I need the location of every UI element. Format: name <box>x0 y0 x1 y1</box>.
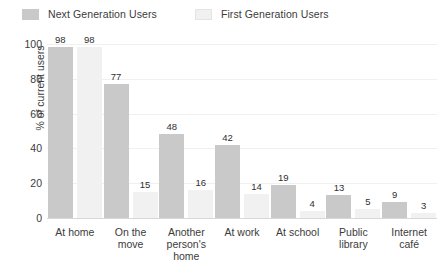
bar <box>411 213 436 218</box>
x-axis-line <box>47 218 437 219</box>
bar-value-label: 77 <box>104 72 129 82</box>
bar-value-label: 16 <box>188 178 213 188</box>
bar-group: 7715 <box>104 44 158 218</box>
x-axis-category-label: At home <box>47 226 103 238</box>
bar <box>188 190 213 218</box>
bar-group: 9898 <box>48 44 102 218</box>
bar-value-label: 98 <box>77 35 102 45</box>
bar-value-label: 9 <box>382 190 407 200</box>
chart-legend: Next Generation Users First Generation U… <box>22 8 329 20</box>
bar-value-label: 98 <box>48 35 73 45</box>
x-axis-category-label: Internetcafé <box>381 226 437 250</box>
bar <box>77 47 102 218</box>
legend-swatch-first-generation-users <box>195 9 212 20</box>
bar-value-label: 5 <box>355 197 380 207</box>
bar <box>355 209 380 218</box>
bar-group: 194 <box>271 44 325 218</box>
bar <box>244 194 269 218</box>
y-axis-tick-label: 0 <box>16 213 42 224</box>
bar-group: 93 <box>382 44 436 218</box>
bar-value-label: 48 <box>159 122 184 132</box>
bar-value-label: 3 <box>411 201 436 211</box>
bar-value-label: 42 <box>215 133 240 143</box>
x-axis-category-label: Publiclibrary <box>326 226 382 250</box>
bar-chart: Next Generation Users First Generation U… <box>0 0 444 273</box>
bars-layer: 989877154816421419413593 <box>47 44 437 218</box>
bar <box>104 84 129 218</box>
bar-group: 4816 <box>159 44 213 218</box>
x-axis-category-label: At school <box>270 226 326 238</box>
legend-label-next-generation-users: Next Generation Users <box>48 8 157 20</box>
y-axis-tick-label: 20 <box>16 178 42 189</box>
legend-swatch-next-generation-users <box>22 9 39 20</box>
x-axis-category-labels: At homeOn themoveAnotherperson'shomeAt w… <box>47 226 437 272</box>
bar <box>271 185 296 218</box>
bar-value-label: 15 <box>133 180 158 190</box>
y-axis-tick-labels: 020406080100 <box>12 44 42 218</box>
legend-label-first-generation-users: First Generation Users <box>221 8 329 20</box>
bar <box>326 195 351 218</box>
y-axis-tick-label: 80 <box>16 74 42 85</box>
y-axis-tick-label: 60 <box>16 109 42 120</box>
x-axis-category-label: At work <box>214 226 270 238</box>
x-axis-category-label: On themove <box>103 226 159 250</box>
bar <box>48 47 73 218</box>
x-axis-category-label: Anotherperson'shome <box>158 226 214 262</box>
bar <box>300 211 325 218</box>
bar <box>133 192 158 218</box>
y-axis-tick-label: 100 <box>16 39 42 50</box>
legend-item-first-generation-users: First Generation Users <box>195 8 329 20</box>
bar-value-label: 13 <box>326 183 351 193</box>
bar-group: 4214 <box>215 44 269 218</box>
bar-value-label: 19 <box>271 173 296 183</box>
bar-value-label: 14 <box>244 182 269 192</box>
bar <box>159 134 184 218</box>
bar <box>215 145 240 218</box>
bar-value-label: 4 <box>300 199 325 209</box>
bar-group: 135 <box>326 44 380 218</box>
bar <box>382 202 407 218</box>
y-axis-tick-label: 40 <box>16 143 42 154</box>
legend-item-next-generation-users: Next Generation Users <box>22 8 157 20</box>
